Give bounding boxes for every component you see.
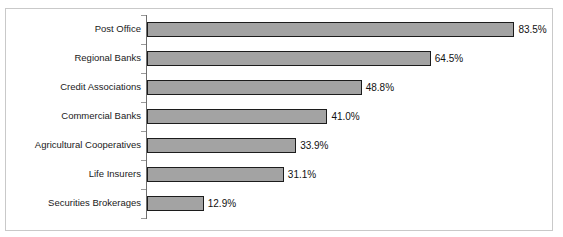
- bar-agricultural-cooperatives: [147, 138, 296, 153]
- bar-regional-banks: [147, 51, 431, 66]
- category-label-post-office: Post Office: [6, 24, 141, 34]
- axis-tick: [141, 189, 146, 190]
- value-label-post-office: 83.5%: [518, 24, 546, 35]
- bar-chart-figure: Post Office 83.5% Regional Banks 64.5% C…: [0, 0, 563, 237]
- axis-tick: [141, 44, 146, 45]
- chart-frame: Post Office 83.5% Regional Banks 64.5% C…: [5, 8, 553, 231]
- bar-securities-brokerages: [147, 196, 204, 211]
- axis-tick: [141, 15, 146, 16]
- category-label-regional-banks: Regional Banks: [6, 53, 141, 63]
- bar-life-insurers: [147, 167, 284, 182]
- axis-tick: [141, 160, 146, 161]
- category-label-securities-brokerages: Securities Brokerages: [6, 198, 141, 208]
- bar-commercial-banks: [147, 109, 327, 124]
- axis-tick: [141, 73, 146, 74]
- bar-post-office: [147, 22, 514, 37]
- value-label-regional-banks: 64.5%: [435, 53, 463, 64]
- value-label-commercial-banks: 41.0%: [331, 111, 359, 122]
- bar-credit-associations: [147, 80, 362, 95]
- axis-tick: [141, 131, 146, 132]
- value-label-life-insurers: 31.1%: [288, 169, 316, 180]
- value-label-agricultural-cooperatives: 33.9%: [300, 140, 328, 151]
- axis-tick: [141, 102, 146, 103]
- category-label-commercial-banks: Commercial Banks: [6, 111, 141, 121]
- value-label-securities-brokerages: 12.9%: [208, 198, 236, 209]
- category-label-credit-associations: Credit Associations: [6, 82, 141, 92]
- axis-tick: [141, 218, 146, 219]
- category-label-agricultural-cooperatives: Agricultural Cooperatives: [6, 140, 141, 150]
- value-label-credit-associations: 48.8%: [366, 82, 394, 93]
- category-label-life-insurers: Life Insurers: [6, 169, 141, 179]
- plot-area: Post Office 83.5% Regional Banks 64.5% C…: [6, 9, 552, 230]
